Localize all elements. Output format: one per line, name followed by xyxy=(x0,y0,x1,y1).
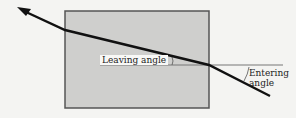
entering-angle-label: Entering angle xyxy=(249,68,289,88)
entering-label-line2: angle xyxy=(249,78,289,88)
entering-label-line1: Entering xyxy=(249,68,289,78)
leaving-angle-label: Leaving angle xyxy=(100,55,168,65)
